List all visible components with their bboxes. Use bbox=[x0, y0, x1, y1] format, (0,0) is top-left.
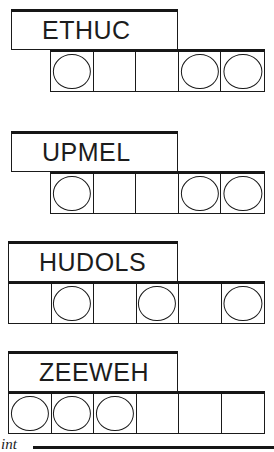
answer-cell[interactable] bbox=[221, 174, 264, 213]
answer-cell[interactable] bbox=[136, 52, 179, 91]
answer-cell[interactable] bbox=[9, 394, 52, 433]
circle-token-icon bbox=[180, 176, 218, 212]
answer-cell[interactable] bbox=[9, 284, 52, 323]
answer-cell[interactable] bbox=[94, 284, 137, 323]
footer-horizontal-rule bbox=[33, 446, 274, 449]
answer-cell[interactable] bbox=[137, 394, 180, 433]
word-label-box-zeeweh: ZEEWEH bbox=[8, 351, 178, 392]
circle-token-icon bbox=[223, 54, 262, 90]
word-label-text: HUDOLS bbox=[9, 250, 146, 275]
answer-cell[interactable] bbox=[222, 394, 265, 433]
circle-token-icon bbox=[53, 396, 91, 432]
answer-cell[interactable] bbox=[137, 284, 180, 323]
word-label-text: UPMEL bbox=[12, 140, 131, 165]
word-label-box-ethuc: ETHUC bbox=[11, 9, 178, 50]
word-label-box-hudols: HUDOLS bbox=[8, 241, 178, 282]
answer-cell-row-hudols bbox=[8, 281, 265, 324]
answer-cell[interactable] bbox=[179, 52, 222, 91]
answer-cell[interactable] bbox=[94, 174, 137, 213]
answer-cell[interactable] bbox=[179, 394, 222, 433]
circle-token-icon bbox=[138, 286, 176, 322]
word-label-text: ETHUC bbox=[12, 18, 131, 43]
answer-cell[interactable] bbox=[179, 284, 222, 323]
circle-token-icon bbox=[180, 54, 218, 90]
answer-cell[interactable] bbox=[51, 174, 94, 213]
answer-cell-row-zeeweh bbox=[8, 391, 265, 434]
circle-token-icon bbox=[53, 176, 91, 212]
circle-token-icon bbox=[53, 54, 91, 90]
answer-cell-row-ethuc bbox=[50, 49, 265, 92]
answer-cell[interactable] bbox=[221, 52, 264, 91]
answer-cell[interactable] bbox=[52, 394, 95, 433]
circle-token-icon bbox=[53, 286, 91, 322]
word-label-box-upmel: UPMEL bbox=[11, 131, 178, 172]
answer-cell[interactable] bbox=[51, 52, 94, 91]
answer-cell[interactable] bbox=[222, 284, 265, 323]
answer-cell-row-upmel bbox=[50, 171, 265, 214]
answer-cell[interactable] bbox=[52, 284, 95, 323]
answer-cell[interactable] bbox=[94, 394, 137, 433]
answer-cell[interactable] bbox=[136, 174, 179, 213]
answer-cell[interactable] bbox=[94, 52, 137, 91]
answer-cell[interactable] bbox=[179, 174, 222, 213]
circle-token-icon bbox=[11, 396, 49, 432]
cropped-text-fragment: int bbox=[1, 436, 31, 452]
worksheet-canvas: ETHUC UPMEL bbox=[0, 0, 274, 452]
circle-token-icon bbox=[223, 286, 262, 322]
word-label-text: ZEEWEH bbox=[9, 360, 149, 385]
circle-token-icon bbox=[223, 176, 262, 212]
circle-token-icon bbox=[96, 396, 134, 432]
